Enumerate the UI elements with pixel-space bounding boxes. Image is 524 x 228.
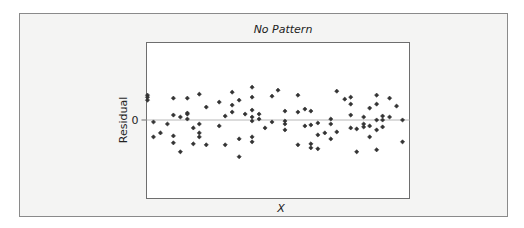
chart-title: No Pattern: [254, 23, 313, 36]
x-axis-label: X: [276, 202, 285, 215]
y-axis-label: Residual: [117, 97, 130, 143]
residual-scatter-chart: No Pattern 0 Residual X: [0, 0, 524, 228]
y-tick-label-0: 0: [132, 114, 139, 127]
